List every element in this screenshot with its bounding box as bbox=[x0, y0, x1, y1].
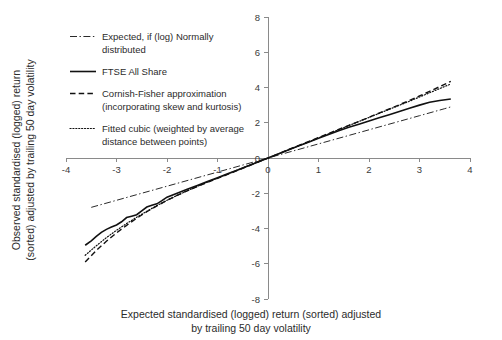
y-axis-title-line1: Observed standardised (logged) return bbox=[10, 70, 22, 251]
legend-label-line1: Expected, if (log) Normally bbox=[102, 31, 214, 42]
x-tick-label: -2 bbox=[163, 164, 171, 175]
x-axis-title-line1: Expected standardised (logged) return (s… bbox=[121, 308, 381, 320]
legend: Expected, if (log) NormallydistributedFT… bbox=[70, 31, 244, 147]
x-tick-label: 1 bbox=[316, 164, 321, 175]
x-tick-label: -1 bbox=[213, 164, 221, 175]
legend-label-line1: Cornish-Fisher approximation bbox=[102, 88, 227, 99]
y-tick-label: -8 bbox=[252, 294, 260, 305]
y-tick-label: 2 bbox=[255, 117, 260, 128]
y-tick-label: -2 bbox=[252, 188, 260, 199]
qq-plot-figure: -4-3-2-101234-8-6-4-202468 Expected, if … bbox=[0, 0, 502, 340]
y-axis-title-line2: (sorted) adjusted by trailing 50 day vol… bbox=[24, 59, 36, 261]
chart-canvas: -4-3-2-101234-8-6-4-202468 Expected, if … bbox=[0, 0, 502, 340]
x-tick-label: 0 bbox=[265, 164, 270, 175]
legend-label-line2: (incorporating skew and kurtosis) bbox=[102, 101, 241, 112]
y-tick-label: 4 bbox=[255, 82, 260, 93]
legend-label-line1: Fitted cubic (weighted by average bbox=[102, 123, 244, 134]
legend-label-line2: distance between points) bbox=[102, 136, 207, 147]
legend-item[interactable]: Expected, if (log) Normallydistributed bbox=[70, 31, 214, 55]
x-tick-label: 3 bbox=[417, 164, 422, 175]
legend-item[interactable]: Cornish-Fisher approximation(incorporati… bbox=[70, 88, 241, 112]
legend-label-line1: FTSE All Share bbox=[102, 66, 167, 77]
legend-item[interactable]: FTSE All Share bbox=[70, 66, 167, 77]
x-tick-label: -4 bbox=[62, 164, 70, 175]
x-axis-title-line2: by trailing 50 day volatility bbox=[191, 322, 311, 334]
y-tick-label: 8 bbox=[255, 12, 260, 23]
x-tick-label: 2 bbox=[366, 164, 371, 175]
y-tick-label: -6 bbox=[252, 258, 260, 269]
y-tick-label: 6 bbox=[255, 47, 260, 58]
legend-item[interactable]: Fitted cubic (weighted by averagedistanc… bbox=[70, 123, 244, 147]
legend-label-line2: distributed bbox=[102, 44, 146, 55]
y-axis-title: Observed standardised (logged) return (s… bbox=[10, 59, 36, 261]
x-tick-label: -3 bbox=[112, 164, 120, 175]
y-tick-label: -4 bbox=[252, 223, 260, 234]
x-tick-label: 4 bbox=[467, 164, 472, 175]
x-axis-title: Expected standardised (logged) return (s… bbox=[121, 308, 381, 334]
